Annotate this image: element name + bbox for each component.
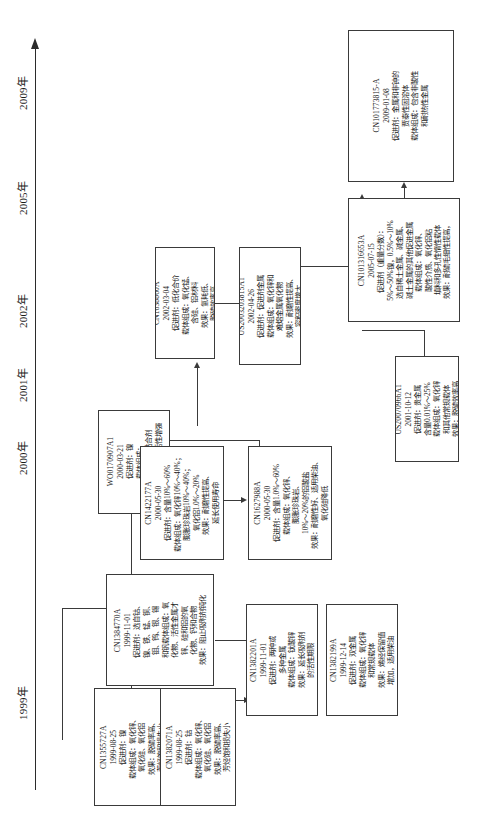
patent-node-cn1382201a[interactable]: CN1382201A 1999-11-01 促进剂：两种或 多种金属 载体组成：… [246, 604, 318, 716]
patent-node-cn101316653a[interactable]: CN101316653A 2005-07-15 促进剂（重量分数）： 5%～50… [348, 198, 460, 322]
connector-arrow-icon [241, 497, 247, 503]
roadmap-canvas: 1999年 2000年 2001年 2002年 2005年 2009年 [0, 0, 502, 825]
patent-node-cn1384770a[interactable]: CN1384770A 1999-11-01 促进剂：选自钴、 镍、铁、锰、铜、 … [106, 574, 214, 686]
connector-segment [424, 330, 425, 356]
patent-node-text: CN1384770A 1999-11-01 促进剂：选自钴、 镍、铁、锰、铜、 … [113, 595, 208, 665]
patent-node-text: US20070966A1 2001-10-12 促进剂：贵金属 含量0.01%～… [395, 381, 459, 437]
patent-node-text: CN1382201A 1999-11-01 促进剂：两种或 多种金属 载体组成：… [249, 632, 316, 688]
connector-segment [62, 608, 110, 609]
connector-segment [62, 608, 63, 740]
patent-node-cn1355727a[interactable]: CN1355727A 1999-08-25 促进剂：镍 载体组成：氧化锌、 氧化… [94, 688, 170, 806]
patent-node-text: CN1627988A 2000-05-30 促进剂：含量1.0%～60% 载体组… [252, 458, 328, 549]
patent-node-text: CN1422177A 2000-05-30 促进剂：含量10%～60% 载体组成… [144, 454, 220, 551]
patent-node-cn1382071a[interactable]: CN1382071A 1999-08-25 促进剂：钴 载体组成：氧化锌、 氧化… [160, 688, 236, 806]
year-label-2005: 2005年 [14, 162, 30, 234]
patent-node-text: US2003203815A1 2002-04-26 促进剂：促进剂金属 载体组成… [239, 275, 301, 338]
connector-arrow-icon [194, 362, 200, 368]
year-label-2009: 2009年 [14, 57, 30, 129]
patent-node-cn1638860a[interactable]: CN1638860A 2002-03-04 促进剂：低化合价 载体组成：氧化锰、… [155, 247, 215, 359]
year-label-2002: 2002年 [14, 275, 30, 347]
patent-node-cn1627988a[interactable]: CN1627988A 2000-05-30 促进剂：含量1.0%～60% 载体组… [248, 446, 332, 560]
patent-node-text: CN1382199A 1999-12-14 促进剂：双金属 载体组成：氧化锌 和… [329, 632, 396, 688]
connector-segment [131, 512, 132, 574]
timeline-axis-line [35, 48, 36, 790]
patent-node-cn101773815-a[interactable]: CN101773815-A 2009-01-08 促进剂：金属和非钟的 贾泰性固… [348, 30, 454, 182]
timeline-axis-arrow-icon [31, 38, 39, 49]
patent-node-us2003203815a1[interactable]: US2003203815A1 2002-04-26 促进剂：促进剂金属 载体组成… [239, 247, 301, 365]
connector-segment [197, 368, 198, 426]
patent-node-text: CN101773815-A 2009-01-08 促进剂：金属和非钟的 贾泰性固… [372, 71, 429, 141]
year-label-1999: 1999年 [14, 667, 30, 739]
year-label-2001: 2001年 [14, 349, 30, 421]
patent-node-cn1422177a[interactable]: CN1422177A 2000-05-30 促进剂：含量10%～60% 载体组成… [140, 446, 224, 560]
year-label-2000: 2000年 [14, 422, 30, 494]
patent-node-text: CN1382071A 1999-08-25 促进剂：钴 载体组成：氧化锌、 氧化… [165, 716, 232, 779]
patent-node-text: CN1355727A 1999-08-25 促进剂：镍 载体组成：氧化锌、 氧化… [99, 716, 166, 779]
patent-node-cn1382199a[interactable]: CN1382199A 1999-12-14 促进剂：双金属 载体组成：氧化锌 和… [326, 604, 398, 716]
patent-node-text: CN101316653A 2005-07-15 促进剂（重量分数）： 5%～50… [357, 220, 452, 300]
patent-node-us20070966a1[interactable]: US20070966A1 2001-10-12 促进剂：贵金属 含量0.01%～… [395, 356, 459, 462]
connector-segment [362, 330, 424, 331]
patent-node-text: CN1638860A 2002-03-04 促进剂：低化合价 载体组成：氧化锰、… [155, 272, 215, 335]
connector-arrow-icon [401, 182, 407, 188]
